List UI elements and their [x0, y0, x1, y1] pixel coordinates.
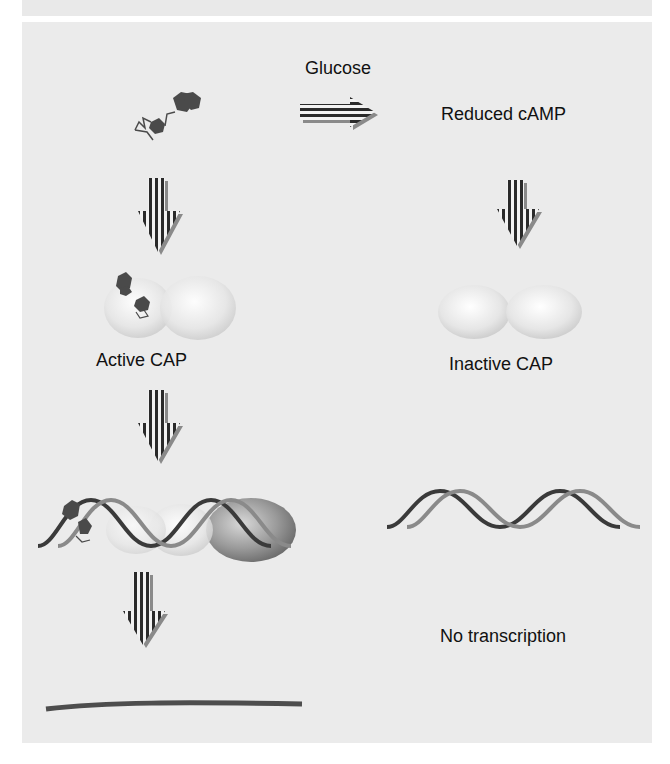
glucose-label: Glucose	[305, 58, 371, 79]
striped-down-arrow-icon	[496, 180, 552, 252]
no-transcription-label: No transcription	[440, 626, 566, 647]
mrna-transcript-line-icon	[44, 696, 306, 716]
cap-protein-dimer-icon	[100, 270, 240, 345]
active-cap-label: Active CAP	[96, 350, 187, 371]
striped-down-arrow-icon	[137, 178, 193, 258]
rna-polymerase-icon	[206, 498, 296, 562]
top-strip	[22, 0, 652, 16]
inactive-cap-label: Inactive CAP	[449, 354, 553, 375]
dna-double-helix-icon	[385, 485, 647, 535]
cap-protein-dimer-icon	[436, 282, 584, 342]
camp-molecule-icon	[133, 88, 203, 143]
striped-right-arrow-icon	[298, 96, 380, 130]
striped-down-arrow-icon	[122, 572, 178, 650]
reduced-camp-label: Reduced cAMP	[441, 104, 566, 125]
striped-down-arrow-icon	[137, 390, 193, 466]
dna-helix-with-cap-and-polymerase	[36, 488, 298, 568]
